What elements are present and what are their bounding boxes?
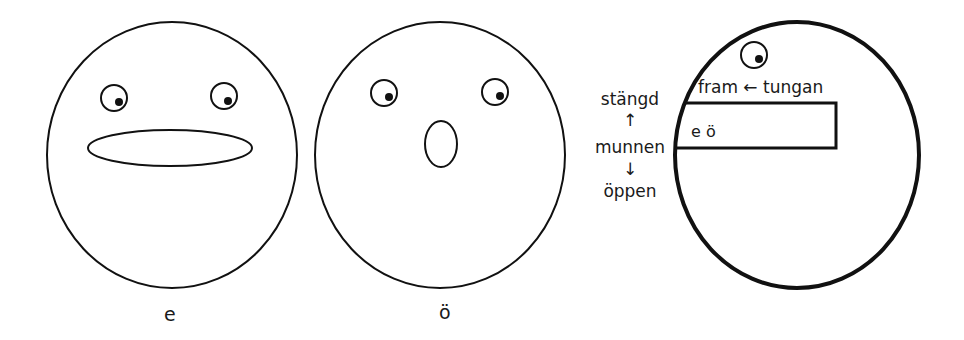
tongue-label: fram ← tungan xyxy=(698,79,823,96)
eye-right xyxy=(482,79,508,105)
eye-left xyxy=(101,85,127,111)
profile-diagram xyxy=(670,22,919,288)
mouth-wide xyxy=(88,130,252,166)
face-outline xyxy=(47,22,297,288)
box-vowels-label: e ö xyxy=(691,124,716,140)
eye-right xyxy=(211,83,237,109)
face-o-umlaut xyxy=(315,22,565,288)
arrow-down-icon: ↓ xyxy=(590,161,670,178)
eye-left xyxy=(371,80,397,106)
label-e: e xyxy=(164,305,176,324)
scale-middle-label: munnen xyxy=(590,139,670,156)
scale-bottom-label: öppen xyxy=(590,183,670,200)
arrow-up-icon: ↑ xyxy=(590,112,670,129)
face-outline xyxy=(315,22,565,288)
head-outline xyxy=(675,22,919,288)
eye xyxy=(741,42,767,68)
scale-top-label: stängd xyxy=(590,91,670,108)
face-e xyxy=(47,22,297,288)
mouth-round xyxy=(425,121,457,167)
label-o-umlaut: ö xyxy=(439,303,451,322)
vowel-diagram xyxy=(0,0,964,340)
